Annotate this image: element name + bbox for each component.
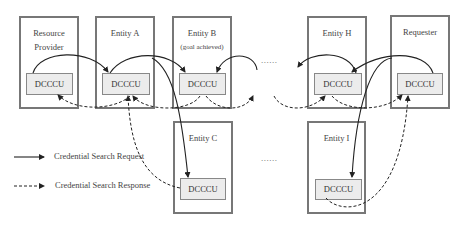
response-arrow bbox=[206, 96, 253, 108]
response-arrow bbox=[133, 96, 200, 108]
response-arrow bbox=[326, 96, 408, 207]
arrows-layer bbox=[0, 0, 463, 228]
request-arrow bbox=[352, 58, 392, 177]
request-arrow bbox=[352, 56, 433, 73]
legend-response-label: Credential Search Response bbox=[55, 180, 150, 190]
request-arrow bbox=[298, 55, 356, 73]
request-arrow bbox=[217, 56, 257, 72]
response-arrow bbox=[128, 96, 180, 188]
response-arrow bbox=[58, 95, 130, 107]
request-arrow bbox=[33, 55, 108, 73]
response-arrow bbox=[332, 95, 402, 108]
request-arrow bbox=[152, 58, 188, 177]
response-arrow bbox=[274, 96, 325, 108]
legend-request-label: Credential Search Request bbox=[54, 151, 144, 161]
request-arrow bbox=[110, 56, 185, 73]
